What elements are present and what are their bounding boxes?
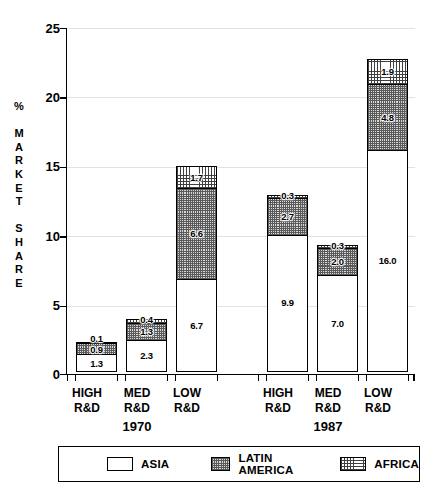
x-tick-mark — [217, 374, 218, 381]
legend-label-latin-america: LATIN AMERICA — [238, 452, 304, 476]
bar-segment-asia: 2.3 — [126, 340, 167, 372]
bar-value-africa: 0.3 — [331, 241, 344, 251]
legend-label-asia: ASIA — [141, 458, 169, 470]
y-tick-mark-20 — [60, 97, 67, 98]
chart-legend: ASIA LATIN AMERICA AFRICA — [58, 446, 420, 482]
x-tick-mark — [413, 374, 414, 381]
bar-value-asia: 9.9 — [281, 298, 294, 308]
bar-value-asia: 2.3 — [140, 351, 153, 361]
x-tick-mark — [308, 374, 309, 381]
group-label-1970: 1970 — [92, 419, 182, 434]
bar-med-rd-1970[interactable]: 0.4 1.3 2.3 — [126, 319, 167, 375]
x-tick-mark — [125, 374, 126, 381]
y-tick-mark-25 — [60, 28, 67, 29]
bar-low-rd-1987[interactable]: 1.9 4.8 16.0 — [367, 59, 408, 374]
x-tick-mark — [358, 374, 359, 381]
y-tick-label-0: 0 — [34, 367, 60, 382]
legend-swatch-africa — [340, 457, 366, 471]
x-tick-mark — [316, 374, 317, 381]
bar-value-latin-america: 6.6 — [190, 229, 203, 239]
bar-segment-latin-america: 4.8 — [367, 84, 408, 151]
x-tick-mark — [175, 374, 176, 381]
bar-high-rd-1970[interactable]: 0.1 0.9 1.3 — [76, 342, 117, 374]
bar-value-asia: 6.7 — [190, 321, 203, 331]
gridline-25 — [67, 28, 415, 29]
y-axis-title-char: S — [6, 222, 32, 236]
gridline-10 — [67, 236, 415, 237]
x-label-line1: LOW — [152, 386, 222, 401]
bar-value-africa: 1.7 — [190, 173, 203, 183]
x-tick-mark — [167, 374, 168, 381]
plot-area: 0.1 0.9 1.3 0.4 1.3 2.3 1.7 — [66, 28, 414, 375]
y-tick-label-15: 15 — [34, 159, 60, 174]
bar-segment-asia: 6.7 — [176, 279, 217, 372]
bar-segment-latin-america: 2.7 — [267, 198, 308, 236]
bar-value-asia: 16.0 — [379, 256, 397, 266]
bar-high-rd-1987[interactable]: 0.3 2.7 9.9 — [267, 195, 308, 374]
bar-value-latin-america: 2.7 — [281, 212, 294, 222]
legend-swatch-latin-america — [211, 457, 230, 471]
bar-value-latin-america: 1.3 — [140, 327, 153, 337]
x-tick-mark — [67, 374, 68, 381]
stacked-bar-chart: % M A R K E T S H A R E 25 20 15 10 5 0 — [0, 0, 434, 499]
y-axis-title-char: M — [6, 127, 32, 141]
y-axis-title-char: E — [6, 182, 32, 196]
y-tick-label-10: 10 — [34, 229, 60, 244]
bar-segment-latin-america: 2.0 — [317, 248, 358, 276]
bar-value-asia: 7.0 — [331, 319, 344, 329]
y-tick-label-20: 20 — [34, 90, 60, 105]
bar-value-latin-america: 0.9 — [90, 345, 103, 355]
gridline-15 — [67, 167, 415, 168]
y-tick-mark-15 — [60, 167, 67, 168]
x-label-line2: R&D — [343, 401, 413, 416]
bar-segment-latin-america: 6.6 — [176, 188, 217, 280]
bar-segment-asia: 9.9 — [267, 235, 308, 372]
group-label-1987: 1987 — [283, 419, 373, 434]
y-axis-title-char: T — [6, 195, 32, 209]
bar-value-asia: 1.3 — [90, 359, 103, 369]
y-axis-title-char: E — [6, 277, 32, 291]
legend-swatch-asia — [107, 457, 133, 471]
y-axis-title-char: A — [6, 250, 32, 264]
y-tick-label-5: 5 — [34, 298, 60, 313]
bar-segment-asia: 1.3 — [76, 354, 117, 372]
bar-med-rd-1987[interactable]: 0.3 2.0 7.0 — [317, 245, 358, 374]
bar-value-latin-america: 4.8 — [381, 113, 394, 123]
x-tick-mark — [117, 374, 118, 381]
x-tick-mark — [266, 374, 267, 381]
y-axis-title-char: A — [6, 141, 32, 155]
y-axis-title-char: % — [6, 100, 32, 114]
x-label-low-rd-1970: LOW R&D — [152, 386, 222, 416]
bar-segment-asia: 7.0 — [317, 275, 358, 372]
x-tick-mark — [75, 374, 76, 381]
x-label-low-rd-1987: LOW R&D — [343, 386, 413, 416]
bar-value-latin-america: 2.0 — [331, 257, 344, 267]
legend-item-latin-america[interactable]: LATIN AMERICA — [211, 452, 304, 476]
x-tick-mark — [258, 374, 259, 381]
bar-low-rd-1970[interactable]: 1.7 6.6 6.7 — [176, 166, 217, 374]
y-tick-mark-5 — [60, 306, 67, 307]
y-tick-mark-10 — [60, 236, 67, 237]
legend-item-asia[interactable]: ASIA — [107, 457, 169, 471]
bar-value-africa: 0.1 — [90, 334, 103, 344]
y-axis-title-char: R — [6, 154, 32, 168]
y-axis-title: % M A R K E T S H A R E — [6, 100, 32, 290]
y-axis-title-spacer — [6, 114, 32, 128]
x-tick-mark — [366, 374, 367, 381]
bar-segment-africa: 1.7 — [176, 166, 217, 190]
legend-item-africa[interactable]: AFRICA — [340, 457, 419, 471]
y-tick-label-25: 25 — [34, 21, 60, 36]
gridline-20 — [67, 97, 415, 98]
x-tick-mark — [408, 374, 409, 381]
y-axis-title-spacer — [6, 209, 32, 223]
x-label-line1: LOW — [343, 386, 413, 401]
bar-segment-latin-america: 1.3 — [126, 323, 167, 341]
bar-value-africa: 0.3 — [281, 191, 294, 201]
bar-value-africa: 1.9 — [381, 67, 394, 77]
y-axis-title-char: R — [6, 263, 32, 277]
legend-label-africa: AFRICA — [374, 458, 419, 470]
x-label-line2: R&D — [152, 401, 222, 416]
bar-value-africa: 0.4 — [140, 315, 153, 325]
y-axis-title-char: H — [6, 236, 32, 250]
y-tick-mark-0 — [60, 374, 67, 375]
